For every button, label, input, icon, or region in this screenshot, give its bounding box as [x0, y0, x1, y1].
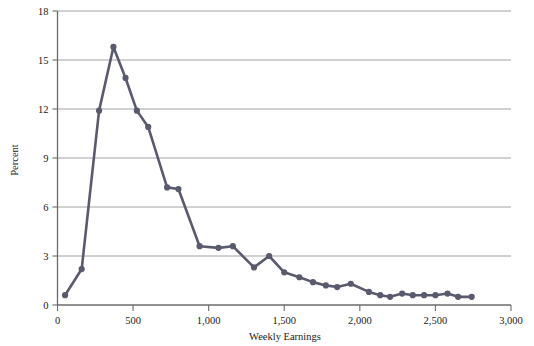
data-point [399, 290, 405, 296]
data-point [334, 284, 340, 290]
x-tick-label: 2,000 [348, 315, 372, 326]
line-chart: 0369121518 05001,0001,5002,0002,5003,000… [0, 0, 534, 346]
data-point [469, 294, 475, 300]
data-point [432, 292, 438, 298]
x-tick-label: 500 [125, 315, 141, 326]
x-axis-title: Weekly Earnings [249, 331, 321, 342]
y-axis [53, 11, 58, 305]
data-point [281, 269, 287, 275]
data-point [455, 294, 461, 300]
y-tick-label: 12 [38, 104, 49, 115]
data-series [62, 44, 475, 300]
data-point [323, 282, 329, 288]
y-tick-label: 0 [43, 300, 48, 311]
data-point [421, 292, 427, 298]
x-tick-label: 1,000 [197, 315, 221, 326]
data-point [251, 264, 257, 270]
x-tick-label: 2,500 [424, 315, 448, 326]
data-point [215, 245, 221, 251]
data-point [110, 44, 116, 50]
data-point [366, 289, 372, 295]
chart-container: 0369121518 05001,0001,5002,0002,5003,000… [0, 0, 534, 346]
data-point [296, 274, 302, 280]
data-point [175, 186, 181, 192]
y-tick-label: 6 [43, 202, 48, 213]
data-point [310, 279, 316, 285]
data-point [164, 184, 170, 190]
x-tick-labels: 05001,0001,5002,0002,5003,000 [55, 315, 523, 326]
gridlines [58, 11, 512, 256]
y-tick-label: 9 [43, 153, 48, 164]
series-line [65, 47, 472, 297]
data-point [266, 253, 272, 259]
y-tick-label: 3 [43, 251, 48, 262]
data-point [410, 292, 416, 298]
y-tick-label: 15 [38, 55, 49, 66]
data-point [134, 108, 140, 114]
data-point [196, 243, 202, 249]
x-tick-label: 1,500 [272, 315, 296, 326]
data-point [387, 294, 393, 300]
y-tick-labels: 0369121518 [38, 6, 49, 311]
x-tick-label: 3,000 [499, 315, 523, 326]
x-axis [58, 305, 512, 311]
y-tick-label: 18 [38, 6, 49, 17]
data-point [62, 292, 68, 298]
data-point [79, 266, 85, 272]
data-point [230, 243, 236, 249]
data-point [377, 292, 383, 298]
data-point [348, 281, 354, 287]
data-point [96, 108, 102, 114]
x-tick-label: 0 [55, 315, 60, 326]
data-point [122, 75, 128, 81]
data-point [145, 124, 151, 130]
data-point [444, 290, 450, 296]
y-axis-title: Percent [9, 144, 20, 176]
